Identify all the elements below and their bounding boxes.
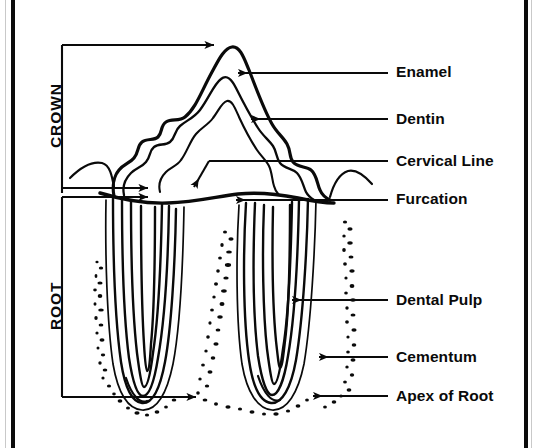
- enamel-outline: [113, 47, 330, 200]
- root-mesial: [113, 197, 176, 403]
- region-label-root: ROOT: [48, 282, 64, 330]
- callout-label-cementum: Cementum: [396, 349, 477, 365]
- callout-label-dentin: Dentin: [396, 111, 445, 127]
- callout-label-dental-pulp: Dental Pulp: [396, 292, 482, 308]
- pulp-chamber: [159, 101, 279, 195]
- tooth-illustration: [0, 0, 535, 448]
- cementum-layer: [106, 200, 316, 410]
- callout-label-apex-of-root: Apex of Root: [396, 388, 494, 404]
- callout-label-cervical-line: Cervical Line: [396, 153, 494, 169]
- diagram-canvas: CROWN ROOT Enamel Dentin Cervical Line F…: [0, 0, 535, 448]
- callout-label-enamel: Enamel: [396, 64, 452, 80]
- alveolar-bone-right: [323, 221, 357, 409]
- callout-label-furcation: Furcation: [396, 191, 468, 207]
- region-label-crown: CROWN: [48, 83, 64, 148]
